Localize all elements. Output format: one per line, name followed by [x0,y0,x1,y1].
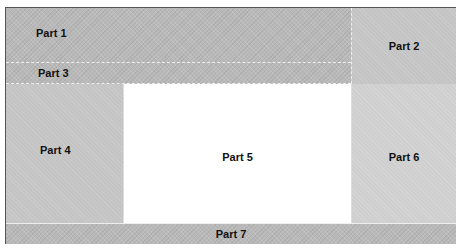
part-2-corner: Part 2 [351,8,456,84]
part-6-label: Part 6 [389,151,420,163]
part-4-label: Part 4 [40,144,71,156]
part-1-header: Part 1 [6,8,351,63]
part-4-left-sidebar: Part 4 [6,84,124,223]
layout-frame: Part 1 Part 2 Part 3 Part 4 Part 5 Part … [5,7,456,244]
part-2-label: Part 2 [389,40,420,52]
part-6-right-sidebar: Part 6 [351,84,456,223]
part-1-label: Part 1 [36,27,67,39]
part-3-subheader: Part 3 [6,63,351,84]
part-5-main-content: Part 5 [124,84,351,223]
part-3-label: Part 3 [38,67,69,79]
part-7-footer: Part 7 [6,223,456,244]
part-5-label: Part 5 [222,151,253,163]
part-7-label: Part 7 [216,228,247,240]
